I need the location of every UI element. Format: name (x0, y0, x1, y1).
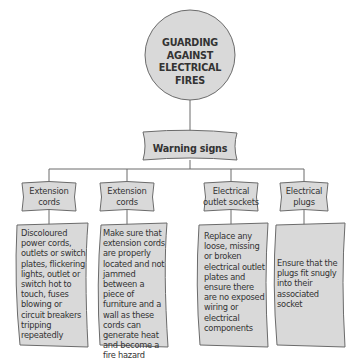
category-label-electrical-outlet-sockets: Electrical outlet sockets (202, 186, 260, 208)
category-label-extension-cords-2: Extension cords (100, 186, 154, 208)
detail-text-electrical-outlet-sockets: Replace any loose, missing or broken ele… (204, 231, 266, 333)
fire-safety-diagram: GUARDING AGAINST ELECTRICAL FIRES Warnin… (0, 0, 360, 364)
category-label-electrical-plugs: Electrical plugs (282, 186, 326, 208)
detail-text-electrical-plugs: Ensure that the plugs fit snugly into th… (277, 258, 341, 309)
category-label-extension-cords-1: Extension cords (22, 186, 76, 208)
diagram-title: GUARDING AGAINST ELECTRICAL FIRES (152, 37, 228, 87)
warning-signs-label: Warning signs (140, 143, 240, 155)
detail-text-extension-cords-2: Make sure that extension cords are prope… (103, 228, 167, 361)
detail-text-extension-cords-1: Discoloured power cords, outlets or swit… (21, 228, 87, 340)
